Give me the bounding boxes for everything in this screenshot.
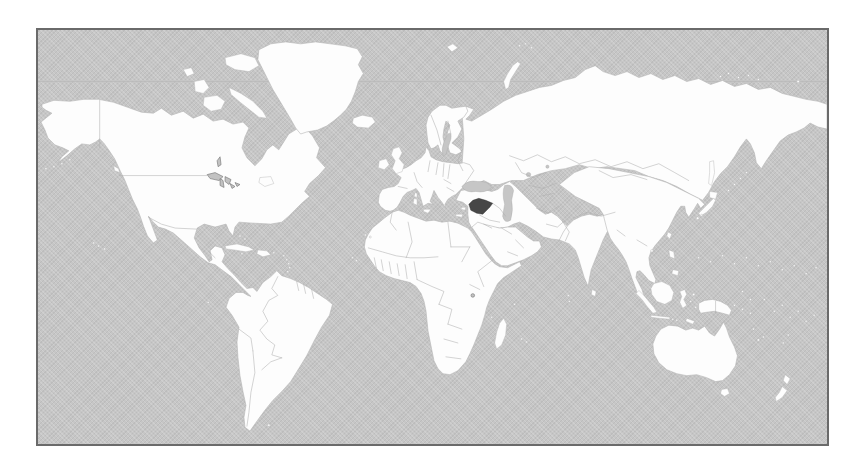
island-java <box>651 315 670 319</box>
island-iceland <box>352 115 375 128</box>
island-sulawesi <box>680 289 687 308</box>
island-borneo <box>651 282 674 305</box>
island-new-zealand-south <box>775 387 787 402</box>
island-svalbard <box>447 44 458 52</box>
island-new-zealand-north <box>783 375 790 385</box>
island-ellesmere <box>225 54 259 72</box>
island-corsica <box>414 192 417 197</box>
island-taiwan <box>667 232 672 239</box>
world-map-frame <box>36 28 829 446</box>
island-madagascar <box>495 318 507 349</box>
island-sri-lanka <box>591 289 596 296</box>
island-cyprus <box>461 207 466 210</box>
island-ireland <box>378 159 389 170</box>
landmasses <box>41 42 827 431</box>
world-map <box>38 30 827 444</box>
island-philippines-luzon <box>669 250 675 259</box>
island-crete <box>456 214 463 217</box>
landmass-india <box>559 214 613 286</box>
island-hispaniola <box>257 250 271 257</box>
island-cuba <box>225 244 254 252</box>
landmass-new-guinea <box>699 299 732 315</box>
island-sardinia <box>413 198 417 205</box>
landmass-americas <box>41 99 333 431</box>
lake-victoria <box>471 294 475 298</box>
landmass-australia <box>653 322 738 381</box>
landmass-greenland <box>258 42 363 134</box>
island-victoria <box>203 95 225 111</box>
island-tasmania <box>721 389 730 397</box>
black-sea <box>462 181 492 192</box>
island-arctic-small <box>183 68 194 77</box>
island-novaya-zemlya <box>504 62 521 90</box>
screenshot-root: { "map": { "description": "World politic… <box>0 0 864 472</box>
island-timor <box>686 318 695 324</box>
island-sicily <box>423 209 431 213</box>
lake-balkhash <box>546 165 549 168</box>
island-philippines-mindanao <box>672 270 679 276</box>
island-baffin <box>229 87 267 118</box>
island-great-britain <box>391 147 404 174</box>
